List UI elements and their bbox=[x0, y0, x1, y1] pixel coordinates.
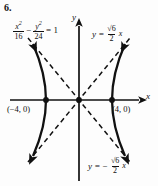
origin-point bbox=[76, 97, 82, 103]
vertex-point-right bbox=[109, 97, 115, 103]
vertex-label-right: (4, 0) bbox=[112, 105, 130, 114]
hyperbola-figure: 6. x y (−4, 0) (4, 0) x2 16 − y2 24 = 1 … bbox=[0, 0, 158, 186]
equation-denominator-2: 24 bbox=[33, 31, 44, 41]
x-axis-label: x bbox=[146, 92, 150, 101]
problem-number: 6. bbox=[4, 3, 12, 13]
asymptote-pos-lhs: y = bbox=[92, 30, 104, 39]
equation-equals: = 1 bbox=[46, 26, 59, 35]
asymptote-neg-denominator: 2 bbox=[112, 166, 119, 176]
asymptote-neg-lhs: y = bbox=[88, 162, 100, 171]
equation-denominator-1: 16 bbox=[13, 31, 24, 41]
vertex-point-left bbox=[43, 97, 49, 103]
y-axis-label: y bbox=[72, 13, 76, 22]
asymptote-neg-variable: x bbox=[122, 162, 126, 170]
asymptote-pos-radical: √6 bbox=[106, 25, 117, 34]
asymptote-label-positive: y = √6 2 x bbox=[92, 25, 122, 43]
equation-exponent-2: 2 bbox=[39, 20, 42, 26]
asymptote-pos-denominator: 2 bbox=[108, 34, 115, 44]
asymptote-pos-variable: x bbox=[119, 30, 123, 38]
asymptote-pos-fraction: √6 2 bbox=[106, 25, 117, 43]
equation-exponent-1: 2 bbox=[19, 20, 22, 26]
equation-operator: − bbox=[26, 26, 32, 35]
asymptote-label-negative: y = − √6 2 x bbox=[88, 157, 126, 175]
equation-first-term: x2 16 bbox=[13, 20, 24, 41]
equation-second-term: y2 24 bbox=[33, 20, 44, 41]
asymptote-neg-fraction: √6 2 bbox=[109, 157, 120, 175]
asymptote-neg-radical: √6 bbox=[109, 157, 120, 166]
vertex-label-left: (−4, 0) bbox=[7, 105, 30, 114]
hyperbola-equation: x2 16 − y2 24 = 1 bbox=[13, 20, 58, 41]
asymptote-neg-sign: − bbox=[102, 162, 108, 171]
